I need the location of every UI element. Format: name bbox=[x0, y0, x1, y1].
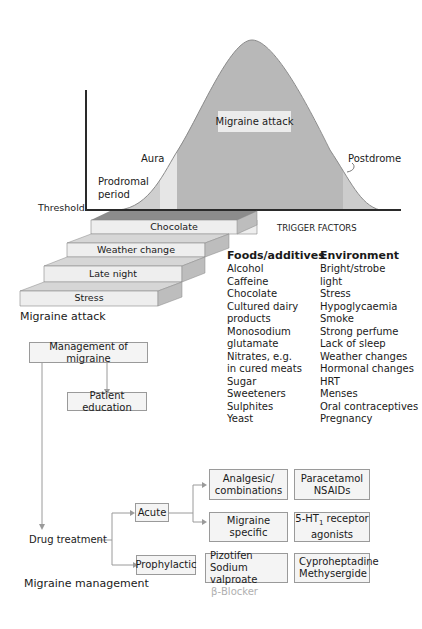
patient-education-box: Patient education bbox=[67, 392, 147, 411]
prophylactic-drugs1-line1: Pizotifen bbox=[210, 550, 253, 562]
specific-drugs-suffix: receptor bbox=[323, 513, 368, 524]
threshold-label: Threshold bbox=[38, 202, 85, 214]
environment-item: Stress bbox=[320, 288, 420, 301]
staircase-caption: Migraine attack bbox=[20, 311, 106, 323]
aura-band bbox=[160, 30, 177, 211]
food-item: Yeast bbox=[227, 413, 322, 426]
environment-column: Environment Bright/strobe light Stress H… bbox=[320, 249, 420, 426]
environment-item: Smoke bbox=[320, 313, 420, 326]
trigger-factors-title: TRIGGER FACTORS bbox=[277, 222, 357, 234]
postdrome-label: Postdrome bbox=[348, 153, 401, 165]
management-caption: Migraine management bbox=[24, 578, 149, 590]
analgesic-drugs-box: Paracetamol NSAIDs bbox=[294, 469, 370, 500]
postdrome-band bbox=[343, 30, 403, 211]
prophylactic-drugs-box-2: Cyproheptadine Methysergide bbox=[294, 553, 370, 583]
acute-label: Acute bbox=[138, 507, 167, 519]
environment-item: Hormonal changes bbox=[320, 363, 420, 376]
environment-item: Pregnancy bbox=[320, 413, 420, 426]
foods-column: Foods/additives Alcohol Caffeine Chocola… bbox=[227, 249, 322, 426]
step-late-night: Late night bbox=[44, 268, 182, 280]
prophylactic-drugs2-line2: Methysergide bbox=[299, 568, 367, 580]
food-item: glutamate bbox=[227, 338, 322, 351]
foods-heading: Foods/additives bbox=[227, 249, 322, 263]
environment-item: Menses bbox=[320, 388, 420, 401]
environment-item: light bbox=[320, 276, 420, 289]
prophylactic-box: Prophylactic bbox=[136, 555, 196, 575]
specific-drugs-line2: agonists bbox=[311, 529, 353, 541]
food-item: products bbox=[227, 313, 322, 326]
analgesic-drugs-line2: NSAIDs bbox=[314, 485, 351, 497]
environment-item: Oral contraceptives bbox=[320, 401, 420, 414]
step-weather-change: Weather change bbox=[67, 244, 205, 256]
food-item: Chocolate bbox=[227, 288, 322, 301]
aura-label: Aura bbox=[141, 153, 164, 165]
environment-item: HRT bbox=[320, 376, 420, 389]
peak-label-box: Migraine attack bbox=[218, 111, 291, 132]
food-item: Alcohol bbox=[227, 263, 322, 276]
step-chocolate: Chocolate bbox=[91, 221, 257, 233]
analgesic-box: Analgesic/ combinations bbox=[209, 469, 288, 500]
prophylactic-label: Prophylactic bbox=[135, 559, 196, 571]
specific-drugs-prefix: 5-HT bbox=[295, 513, 319, 524]
environment-item: Lack of sleep bbox=[320, 338, 420, 351]
drug-treatment-label: Drug treatment bbox=[29, 534, 107, 546]
food-item: Sulphites bbox=[227, 401, 322, 414]
food-item: in cured meats bbox=[227, 363, 322, 376]
food-item: Monosodium bbox=[227, 326, 322, 339]
management-root-box: Management of migraine bbox=[29, 342, 148, 363]
prophylactic-drugs2-line1: Cyproheptadine bbox=[299, 556, 379, 568]
food-item: Cultured dairy bbox=[227, 301, 322, 314]
environment-item: Strong perfume bbox=[320, 326, 420, 339]
specific-drugs-box: 5-HT1 receptor agonists bbox=[294, 512, 370, 542]
food-item: Nitrates, e.g. bbox=[227, 351, 322, 364]
acute-box: Acute bbox=[135, 503, 169, 522]
patient-education-label: Patient education bbox=[68, 390, 146, 414]
analgesic-label-line1: Analgesic/ bbox=[223, 473, 274, 485]
peak-label: Migraine attack bbox=[216, 116, 294, 128]
prodromal-label-line1: Prodromal bbox=[98, 176, 149, 188]
specific-drugs-line1: 5-HT1 receptor bbox=[295, 513, 368, 529]
migraine-specific-box: Migraine specific bbox=[209, 512, 288, 542]
migraine-specific-line2: specific bbox=[230, 527, 268, 539]
prophylactic-drugs1-line2: Sodium valproate bbox=[210, 562, 287, 586]
environment-heading: Environment bbox=[320, 249, 420, 263]
environment-item: Weather changes bbox=[320, 351, 420, 364]
environment-item: Hypoglycaemia bbox=[320, 301, 420, 314]
analgesic-drugs-line1: Paracetamol bbox=[301, 473, 363, 485]
analgesic-label-line2: combinations bbox=[215, 485, 282, 497]
food-item: Sweeteners bbox=[227, 388, 322, 401]
prophylactic-drugs-box-1: Pizotifen Sodium valproate bbox=[205, 553, 288, 583]
environment-item: Bright/strobe bbox=[320, 263, 420, 276]
management-root-label: Management of migraine bbox=[30, 341, 147, 365]
step-stress: Stress bbox=[20, 292, 158, 304]
prodromal-label-line2: period bbox=[98, 189, 130, 201]
food-item: Caffeine bbox=[227, 276, 322, 289]
migraine-specific-line1: Migraine bbox=[227, 515, 270, 527]
food-item: Sugar bbox=[227, 376, 322, 389]
beta-blocker-label: β-Blocker bbox=[211, 586, 258, 598]
